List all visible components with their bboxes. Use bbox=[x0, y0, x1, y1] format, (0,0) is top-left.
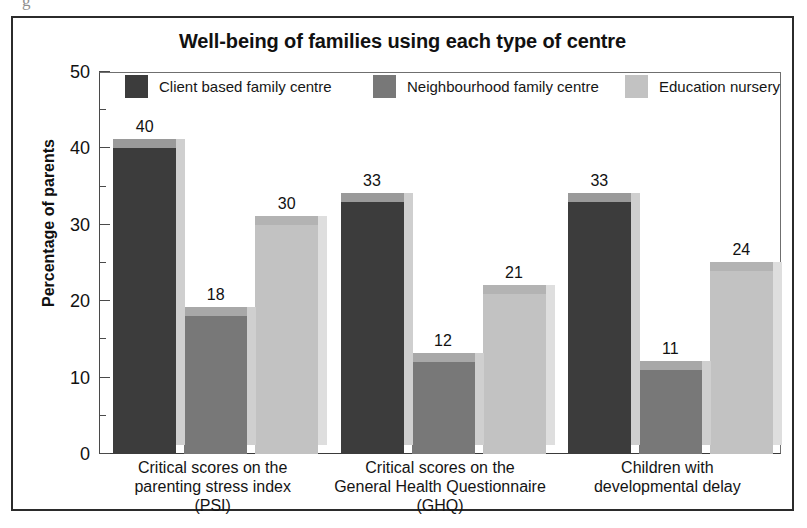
figure-frame: Well-being of families using each type o… bbox=[11, 16, 794, 511]
bars-layer: 401830331221331124 bbox=[99, 72, 781, 454]
bar-side-face bbox=[475, 353, 484, 445]
category-label-2: Critical scores on theGeneral Health Que… bbox=[326, 459, 553, 516]
bar-side-face bbox=[702, 361, 711, 445]
legend-label: Neighbourhood family centre bbox=[407, 78, 599, 95]
legend-swatch-icon bbox=[625, 75, 648, 98]
bar-value-label: 18 bbox=[207, 286, 225, 304]
category-label-1: Critical scores on theparenting stress i… bbox=[99, 459, 326, 516]
bar-value-label: 33 bbox=[363, 172, 381, 190]
bar: 33 bbox=[341, 202, 404, 454]
y-tick-label: 20 bbox=[70, 291, 90, 312]
bar-top-face bbox=[568, 193, 631, 202]
bar-front-face bbox=[639, 370, 702, 454]
y-tick-label: 40 bbox=[70, 138, 90, 159]
bar-front-face bbox=[113, 148, 176, 454]
bar-side-face bbox=[546, 285, 555, 445]
y-tick-label: 30 bbox=[70, 214, 90, 235]
bar-value-label: 11 bbox=[662, 340, 679, 358]
y-tick-label: 50 bbox=[70, 62, 90, 83]
bar-value-label: 21 bbox=[505, 264, 523, 282]
bar-side-face bbox=[247, 307, 256, 445]
bar: 12 bbox=[412, 362, 475, 454]
bar-top-face bbox=[710, 262, 773, 271]
category-label-line: developmental delay bbox=[554, 478, 781, 497]
y-axis-title: Percentage of parents bbox=[40, 123, 58, 323]
bar-side-face bbox=[318, 216, 327, 445]
legend-item-1[interactable]: Client based family centre bbox=[125, 75, 332, 98]
chart-screenshot: g Well-being of families using each type… bbox=[0, 0, 807, 528]
legend-item-3[interactable]: Education nursery bbox=[625, 75, 780, 98]
category-label-line: parenting stress index bbox=[99, 478, 326, 497]
category-label-3: Children withdevelopmental delay bbox=[554, 459, 781, 516]
bar-value-label: 24 bbox=[732, 241, 750, 259]
bar: 18 bbox=[184, 316, 247, 454]
bar-side-face bbox=[176, 139, 185, 445]
bar: 33 bbox=[568, 202, 631, 454]
x-axis-category-labels: Critical scores on theparenting stress i… bbox=[99, 459, 799, 516]
legend-item-2[interactable]: Neighbourhood family centre bbox=[373, 75, 599, 98]
legend-swatch-icon bbox=[373, 75, 396, 98]
category-label-line: (PSI) bbox=[99, 497, 326, 516]
bar-side-face bbox=[773, 262, 782, 445]
bar-top-face bbox=[255, 216, 318, 225]
bar-top-face bbox=[113, 139, 176, 148]
y-tick-label: 0 bbox=[80, 444, 90, 465]
bar-front-face bbox=[412, 362, 475, 454]
bar: 24 bbox=[710, 271, 773, 454]
bar: 40 bbox=[113, 148, 176, 454]
stray-glyph: g bbox=[22, 0, 31, 11]
bar-top-face bbox=[639, 361, 702, 370]
bar-front-face bbox=[184, 316, 247, 454]
bar: 11 bbox=[639, 370, 702, 454]
bar-front-face bbox=[568, 202, 631, 454]
bar-top-face bbox=[412, 353, 475, 362]
plot-area: 01020304050 401830331221331124 Client ba… bbox=[99, 72, 781, 454]
bar-front-face bbox=[255, 225, 318, 454]
legend-label: Client based family centre bbox=[159, 78, 332, 95]
bar-value-label: 30 bbox=[278, 195, 296, 213]
bar-top-face bbox=[341, 193, 404, 202]
category-label-line: (GHQ) bbox=[326, 497, 553, 516]
category-label-line: Critical scores on the bbox=[99, 459, 326, 478]
chart-title: Well-being of families using each type o… bbox=[13, 30, 792, 53]
bar-side-face bbox=[404, 193, 413, 445]
legend-swatch-icon bbox=[125, 75, 148, 98]
bar-value-label: 33 bbox=[590, 172, 608, 190]
bar-front-face bbox=[710, 271, 773, 454]
legend-label: Education nursery bbox=[659, 78, 780, 95]
bar-value-label: 12 bbox=[434, 332, 452, 350]
category-label-line: General Health Questionnaire bbox=[326, 478, 553, 497]
bar-top-face bbox=[184, 307, 247, 316]
bar-top-face bbox=[483, 285, 546, 294]
bar: 30 bbox=[255, 225, 318, 454]
bar-side-face bbox=[631, 193, 640, 445]
bar-front-face bbox=[341, 202, 404, 454]
category-label-line: Children with bbox=[554, 459, 781, 478]
bar: 21 bbox=[483, 294, 546, 454]
category-label-line: Critical scores on the bbox=[326, 459, 553, 478]
bar-front-face bbox=[483, 294, 546, 454]
y-tick-label: 10 bbox=[70, 367, 90, 388]
bar-value-label: 40 bbox=[136, 118, 154, 136]
